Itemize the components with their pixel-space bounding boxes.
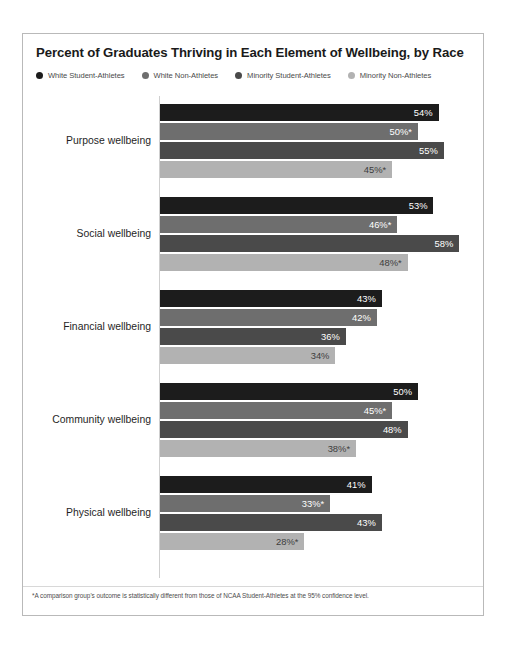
bar-group: Financial wellbeing43%42%36%34% bbox=[23, 290, 483, 366]
bar-value-label: 48%* bbox=[379, 254, 401, 271]
bar bbox=[160, 104, 439, 121]
bar-row: 46%* bbox=[160, 216, 437, 233]
bar-row: 38%* bbox=[160, 440, 396, 457]
bar bbox=[160, 440, 356, 457]
bar-value-label: 45%* bbox=[364, 402, 386, 419]
bar-value-label: 48% bbox=[383, 421, 402, 438]
bar bbox=[160, 347, 335, 364]
bar-row: 36% bbox=[160, 328, 386, 345]
bar-group: Social wellbeing53%46%*58%48%* bbox=[23, 197, 483, 273]
bar-group: Purpose wellbeing54%50%*55%45%* bbox=[23, 104, 483, 180]
bar bbox=[160, 161, 392, 178]
legend-swatch-dot-icon bbox=[36, 72, 43, 79]
chart-legend: White Student-AthletesWhite Non-Athletes… bbox=[36, 71, 448, 80]
legend-item: White Non-Athletes bbox=[142, 71, 219, 80]
bar-value-label: 53% bbox=[409, 197, 428, 214]
bar bbox=[160, 383, 418, 400]
bar-value-label: 46%* bbox=[369, 216, 391, 233]
bar bbox=[160, 309, 377, 326]
bar-value-label: 38%* bbox=[328, 440, 350, 457]
legend-item-label: White Student-Athletes bbox=[48, 71, 125, 80]
bar bbox=[160, 254, 408, 271]
chart-footnote: *A comparison group's outcome is statist… bbox=[32, 592, 369, 599]
category-label: Purpose wellbeing bbox=[23, 135, 151, 146]
bar-row: 54% bbox=[160, 104, 479, 121]
bar-row: 50% bbox=[160, 383, 458, 400]
bar-row: 41% bbox=[160, 476, 412, 493]
legend-item: Minority Non-Athletes bbox=[348, 71, 432, 80]
bar-row: 34% bbox=[160, 347, 375, 364]
bar-value-label: 34% bbox=[311, 347, 330, 364]
bar-row: 53% bbox=[160, 197, 473, 214]
category-label: Physical wellbeing bbox=[23, 507, 151, 518]
page-title: Percent of Graduates Thriving in Each El… bbox=[36, 45, 464, 60]
bar-row: 55% bbox=[160, 142, 484, 159]
bar-group: Community wellbeing50%45%*48%38%* bbox=[23, 383, 483, 459]
chart-card: Percent of Graduates Thriving in Each El… bbox=[22, 33, 484, 616]
legend-swatch-dot-icon bbox=[142, 72, 149, 79]
bar-row: 58% bbox=[160, 235, 499, 252]
bar-value-label: 42% bbox=[352, 309, 371, 326]
legend-swatch-dot-icon bbox=[235, 72, 242, 79]
bar-value-label: 36% bbox=[321, 328, 340, 345]
bar bbox=[160, 235, 459, 252]
bar-value-label: 55% bbox=[419, 142, 438, 159]
bar-row: 48%* bbox=[160, 254, 448, 271]
bar bbox=[160, 421, 408, 438]
bar-value-label: 58% bbox=[435, 235, 454, 252]
legend-item-label: Minority Non-Athletes bbox=[360, 71, 432, 80]
bar-value-label: 50% bbox=[393, 383, 412, 400]
bar-row: 48% bbox=[160, 421, 448, 438]
bar-group: Physical wellbeing41%33%*43%28%* bbox=[23, 476, 483, 552]
bar-row: 50%* bbox=[160, 123, 458, 140]
bar-row: 42% bbox=[160, 309, 417, 326]
bar-value-label: 33%* bbox=[302, 495, 324, 512]
category-label: Social wellbeing bbox=[23, 228, 151, 239]
bar-row: 43% bbox=[160, 514, 422, 531]
bar-row: 43% bbox=[160, 290, 422, 307]
bar bbox=[160, 197, 433, 214]
bar-value-label: 54% bbox=[414, 104, 433, 121]
legend-item-label: Minority Student-Athletes bbox=[247, 71, 331, 80]
bar-row: 33%* bbox=[160, 495, 370, 512]
bar-value-label: 45%* bbox=[364, 161, 386, 178]
chart-plot-area: Purpose wellbeing54%50%*55%45%*Social we… bbox=[23, 96, 483, 586]
footnote-divider bbox=[23, 586, 483, 587]
bar bbox=[160, 290, 382, 307]
bar bbox=[160, 476, 372, 493]
bar-row: 45%* bbox=[160, 161, 432, 178]
bar bbox=[160, 216, 397, 233]
bar bbox=[160, 402, 392, 419]
bar-value-label: 41% bbox=[347, 476, 366, 493]
category-label: Community wellbeing bbox=[23, 414, 151, 425]
bar-value-label: 28%* bbox=[276, 533, 298, 550]
legend-item-label: White Non-Athletes bbox=[154, 71, 219, 80]
bar bbox=[160, 328, 346, 345]
bar-row: 45%* bbox=[160, 402, 432, 419]
legend-item: White Student-Athletes bbox=[36, 71, 125, 80]
category-label: Financial wellbeing bbox=[23, 321, 151, 332]
bar-value-label: 50%* bbox=[390, 123, 412, 140]
legend-swatch-dot-icon bbox=[348, 72, 355, 79]
bar-value-label: 43% bbox=[357, 514, 376, 531]
legend-item: Minority Student-Athletes bbox=[235, 71, 331, 80]
bar-row: 28%* bbox=[160, 533, 344, 550]
bar bbox=[160, 514, 382, 531]
bar bbox=[160, 142, 444, 159]
bar-value-label: 43% bbox=[357, 290, 376, 307]
bar bbox=[160, 123, 418, 140]
